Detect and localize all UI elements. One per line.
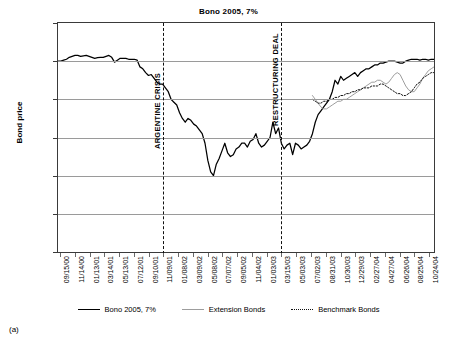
x-tick-label: 01/03/03 bbox=[270, 256, 277, 283]
x-tick-mark bbox=[341, 253, 342, 257]
x-tick-mark bbox=[90, 253, 91, 257]
plot-area: ARGENTINE CRISISRESTRUCTURING DEAL bbox=[57, 22, 435, 253]
x-tick-label: 11/09/01 bbox=[166, 256, 173, 283]
gridline bbox=[58, 176, 434, 177]
x-tick-label: 02/27/04 bbox=[373, 256, 380, 283]
x-tick-label: 03/14/01 bbox=[107, 256, 114, 283]
x-tick-label: 09/05/02 bbox=[240, 256, 247, 283]
x-tick-mark bbox=[193, 253, 194, 257]
x-tick-mark bbox=[281, 253, 282, 257]
legend-item[interactable]: Bono 2005, 7% bbox=[78, 305, 156, 314]
x-tick-label: 08/31/03 bbox=[329, 256, 336, 283]
x-tick-mark bbox=[208, 253, 209, 257]
chart-legend: Bono 2005, 7%Extension BondsBenchmark Bo… bbox=[0, 305, 457, 314]
panel-caption: (a) bbox=[9, 325, 19, 334]
x-tick-label: 05/08/02 bbox=[211, 256, 218, 283]
x-tick-label: 11/04/02 bbox=[255, 256, 262, 283]
x-tick-label: 12/29/03 bbox=[358, 256, 365, 283]
x-tick-mark bbox=[178, 253, 179, 257]
gridline bbox=[58, 99, 434, 100]
x-tick-label: 01/13/01 bbox=[93, 256, 100, 283]
x-tick-label: 09/10/01 bbox=[152, 256, 159, 283]
x-tick-label: 03/15/03 bbox=[284, 256, 291, 283]
x-tick-label: 07/12/01 bbox=[137, 256, 144, 283]
x-tick-label: 04/27/04 bbox=[388, 256, 395, 283]
x-tick-label: 05/13/01 bbox=[122, 256, 129, 283]
x-tick-mark bbox=[134, 253, 135, 257]
x-tick-mark bbox=[326, 253, 327, 257]
x-tick-mark bbox=[355, 253, 356, 257]
series-line bbox=[58, 55, 434, 175]
x-tick-mark bbox=[163, 253, 164, 257]
x-tick-mark bbox=[267, 253, 268, 257]
legend-label: Bono 2005, 7% bbox=[105, 305, 156, 314]
x-tick-mark bbox=[149, 253, 150, 257]
chart-title: Bono 2005, 7% bbox=[0, 7, 457, 16]
x-tick-label: 03/09/02 bbox=[196, 256, 203, 283]
legend-label: Extension Bonds bbox=[209, 305, 265, 314]
x-tick-label: 07/07/02 bbox=[225, 256, 232, 283]
x-tick-mark bbox=[429, 253, 430, 257]
x-tick-mark bbox=[385, 253, 386, 257]
x-tick-label: 08/25/04 bbox=[417, 256, 424, 283]
gridline bbox=[58, 214, 434, 215]
y-axis-title: Bond price bbox=[15, 78, 24, 168]
x-tick-label: 10/30/03 bbox=[344, 256, 351, 283]
legend-item[interactable]: Benchmark Bonds bbox=[291, 305, 379, 314]
x-tick-label: 07/02/03 bbox=[314, 256, 321, 283]
x-tick-mark bbox=[400, 253, 401, 257]
x-tick-mark bbox=[296, 253, 297, 257]
x-tick-mark bbox=[252, 253, 253, 257]
x-tick-mark bbox=[75, 253, 76, 257]
legend-swatch-icon bbox=[182, 309, 204, 310]
x-tick-label: 10/24/04 bbox=[432, 256, 439, 283]
x-tick-label: 09/15/00 bbox=[63, 256, 70, 283]
x-tick-label: 01/08/02 bbox=[181, 256, 188, 283]
legend-item[interactable]: Extension Bonds bbox=[182, 305, 265, 314]
event-label: RESTRUCTURING DEAL bbox=[271, 33, 280, 126]
event-label: ARGENTINE CRISIS bbox=[153, 73, 162, 149]
legend-swatch-icon bbox=[78, 309, 100, 310]
event-line bbox=[163, 23, 164, 254]
x-tick-mark bbox=[119, 253, 120, 257]
x-tick-mark bbox=[370, 253, 371, 257]
event-line bbox=[281, 23, 282, 254]
series-line bbox=[312, 71, 434, 103]
x-tick-label: 05/03/03 bbox=[299, 256, 306, 283]
x-tick-mark bbox=[311, 253, 312, 257]
x-tick-mark bbox=[222, 253, 223, 257]
x-tick-mark bbox=[60, 253, 61, 257]
gridline bbox=[58, 61, 434, 62]
series-line bbox=[312, 65, 434, 109]
x-tick-label: 06/26/04 bbox=[403, 256, 410, 283]
legend-label: Benchmark Bonds bbox=[318, 305, 379, 314]
figure-panel: Bono 2005, 7% Bond price 020406080100120… bbox=[0, 0, 457, 342]
legend-swatch-icon bbox=[291, 309, 313, 310]
x-tick-mark bbox=[237, 253, 238, 257]
x-tick-mark bbox=[104, 253, 105, 257]
gridline bbox=[58, 138, 434, 139]
x-tick-label: 11/14/00 bbox=[78, 256, 85, 283]
x-tick-mark bbox=[414, 253, 415, 257]
